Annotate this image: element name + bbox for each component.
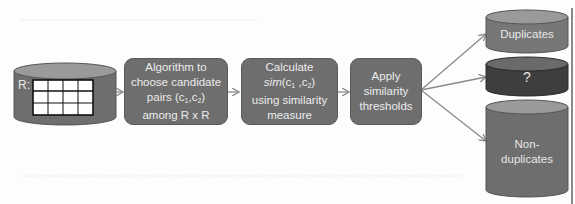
step-text-line: choose candidate bbox=[131, 75, 221, 90]
step-text-line: among R x R bbox=[142, 108, 209, 123]
arrow-to-duplicates bbox=[421, 34, 486, 90]
step-candidate-pairs: Algorithm to choose candidate pairs (c1,… bbox=[124, 58, 228, 125]
arrow-to-unknown bbox=[421, 77, 486, 90]
duplicates-label: Duplicates bbox=[486, 27, 568, 42]
step-text-line: pairs (c1,c2) bbox=[147, 90, 205, 108]
step-text-line: Apply bbox=[372, 69, 401, 84]
step-text-line: Calculate bbox=[266, 60, 314, 75]
step-text-line: Algorithm to bbox=[145, 60, 206, 75]
source-database-cylinder bbox=[14, 63, 116, 125]
label-line: duplicates bbox=[486, 152, 568, 167]
step-text-line: sim(c1 ,c2) bbox=[264, 75, 315, 93]
relation-label: R: bbox=[18, 78, 30, 92]
step-apply-thresholds: Apply similarity thresholds bbox=[350, 58, 422, 125]
step-text-line: using similarity bbox=[252, 93, 327, 108]
unknown-label: ? bbox=[486, 70, 568, 85]
step-text-line: measure bbox=[267, 108, 312, 123]
step-text-line: similarity bbox=[364, 84, 409, 99]
label-line: Non- bbox=[486, 137, 568, 152]
table-grid-icon bbox=[33, 80, 93, 115]
non-duplicates-label: Non- duplicates bbox=[486, 137, 568, 167]
arrow-to-non-duplicates bbox=[421, 90, 486, 141]
flowchart-canvas: ~~~~~~~~~~~~~~~~~~~~~~~~~~~~~~~~~~~~~ ~~… bbox=[0, 0, 575, 204]
right-border-line bbox=[571, 8, 573, 204]
step-calculate-similarity: Calculate sim(c1 ,c2) using similarity m… bbox=[241, 58, 338, 125]
step-text-line: thresholds bbox=[359, 99, 412, 114]
